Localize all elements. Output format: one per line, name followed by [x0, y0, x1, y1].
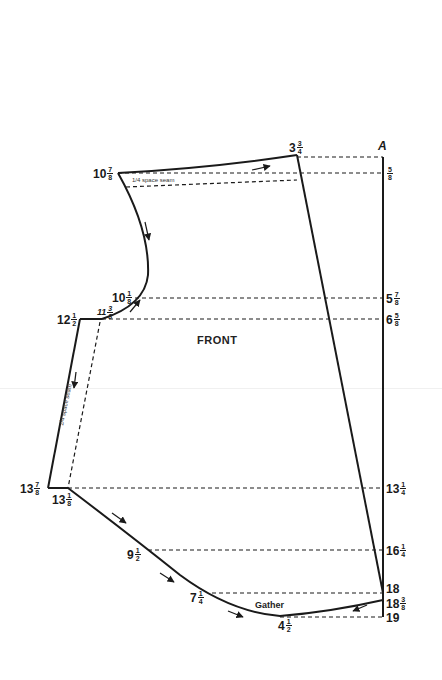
seam-note-top: 1/4 space seam: [132, 177, 174, 183]
pattern-title: FRONT: [197, 334, 237, 346]
measure-label: 4 12: [278, 618, 292, 633]
pattern-outline: [48, 155, 383, 616]
corner-label-a: A: [378, 140, 387, 152]
measure-label: 13 78: [20, 481, 40, 496]
direction-arrows: [74, 166, 367, 617]
measure-label: 9 12: [127, 547, 141, 562]
guide-lines: [68, 157, 383, 617]
measure-label: 3 34: [289, 140, 303, 155]
measure-label: 7 14: [190, 590, 204, 605]
measure-label: 58: [386, 166, 393, 181]
measure-label: 12 12: [57, 312, 77, 327]
measure-label: 18 38: [386, 596, 406, 611]
measure-label: 13 18: [52, 492, 72, 507]
measure-label: 10 78: [93, 166, 113, 181]
measure-label: 16 14: [386, 543, 406, 558]
measure-label: 10 18: [112, 290, 132, 305]
measure-label: 5 78: [386, 291, 400, 306]
measure-label: 6 58: [386, 312, 400, 327]
measure-label: 11 38: [97, 305, 113, 320]
gather-label: Gather: [255, 600, 284, 610]
measure-label: 13 14: [386, 481, 406, 496]
measure-label: 18: [386, 583, 399, 595]
pattern-diagram: FRONT A Gather 1/4 space seam 1/4 space …: [0, 0, 442, 680]
measure-label: 19: [386, 612, 399, 624]
